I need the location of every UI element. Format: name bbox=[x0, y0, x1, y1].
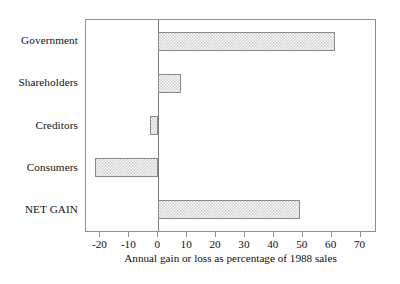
x-tick-10 bbox=[186, 232, 187, 237]
category-label-shareholders: Shareholders bbox=[18, 76, 78, 88]
x-tick-label-70: 70 bbox=[340, 238, 380, 251]
category-label-consumers: Consumers bbox=[27, 161, 78, 173]
bar-creditors bbox=[150, 116, 159, 135]
x-tick-60 bbox=[331, 232, 332, 237]
x-tick-30 bbox=[244, 232, 245, 237]
bar-consumers bbox=[95, 158, 159, 177]
x-tick-20 bbox=[215, 232, 216, 237]
bar-chart: Government Shareholders Creditors Consum… bbox=[0, 0, 400, 284]
plot-area bbox=[85, 19, 376, 232]
zero-axis-line bbox=[158, 20, 159, 231]
x-tick-70 bbox=[360, 232, 361, 237]
category-label-net-gain: NET GAIN bbox=[25, 203, 78, 215]
x-axis-title: Annual gain or loss as percentage of 198… bbox=[85, 252, 376, 265]
bar-shareholders bbox=[158, 74, 181, 93]
category-label-government: Government bbox=[21, 34, 78, 46]
bar-government bbox=[158, 32, 334, 51]
x-tick-50 bbox=[302, 232, 303, 237]
x-tick-40 bbox=[273, 232, 274, 237]
category-label-creditors: Creditors bbox=[35, 119, 78, 131]
x-tick-minus20 bbox=[99, 232, 100, 237]
bar-net-gain bbox=[158, 200, 300, 219]
x-tick-minus10 bbox=[128, 232, 129, 237]
x-tick-0 bbox=[157, 232, 158, 237]
